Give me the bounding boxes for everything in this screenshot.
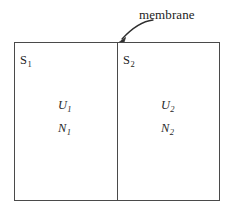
state-variable-n2-symbol: N — [161, 121, 169, 135]
membrane-diagram: membrane S1 S2 U1 N1 U2 N2 — [0, 0, 234, 217]
state-variable-u1: U1 — [58, 99, 71, 113]
state-variable-n2-subscript: 2 — [170, 127, 174, 137]
state-variable-n1: N1 — [58, 122, 71, 136]
state-variable-u2-symbol: U — [161, 98, 170, 112]
chamber-label-s2-subscript: 2 — [130, 59, 134, 69]
state-variable-u2: U2 — [161, 99, 174, 113]
state-variable-u1-subscript: 1 — [67, 104, 71, 114]
state-variable-n1-subscript: 1 — [67, 127, 71, 137]
chamber-label-s2-symbol: S — [123, 53, 130, 67]
chamber-label-s1-subscript: 1 — [27, 59, 31, 69]
chamber-label-s1: S1 — [20, 54, 31, 68]
state-variable-n1-symbol: N — [58, 121, 66, 135]
membrane-divider — [117, 42, 118, 201]
chamber-label-s2: S2 — [123, 54, 134, 68]
chamber-label-s1-symbol: S — [20, 53, 27, 67]
state-variable-u2-subscript: 2 — [170, 104, 174, 114]
state-variable-n2: N2 — [161, 122, 174, 136]
state-variable-u1-symbol: U — [58, 98, 67, 112]
